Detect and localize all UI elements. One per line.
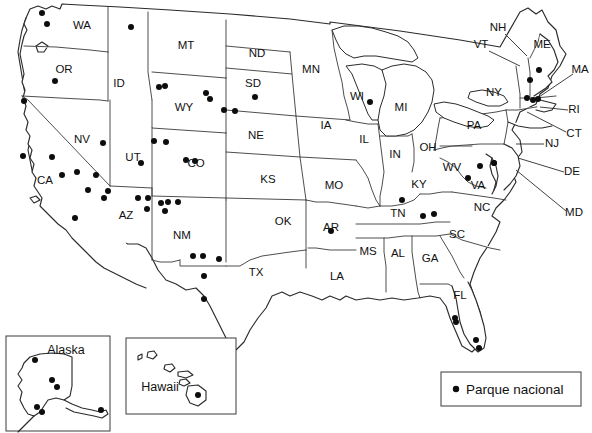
state-label-or: OR <box>55 63 72 75</box>
park-dot <box>101 195 107 201</box>
state-label-oh: OH <box>419 141 436 153</box>
park-dot <box>44 21 50 27</box>
state-label-ct: CT <box>566 127 581 139</box>
park-dot <box>201 273 207 279</box>
leader-line-ct <box>527 112 566 132</box>
park-dot <box>175 199 181 205</box>
park-dot <box>190 253 196 259</box>
park-dot <box>144 206 150 212</box>
park-dot <box>491 160 497 166</box>
park-dot <box>162 208 168 214</box>
state-label-al: AL <box>391 247 406 259</box>
state-label-de: DE <box>564 165 580 177</box>
leader-line-nh <box>505 34 527 56</box>
state-label-nh: NH <box>490 21 507 33</box>
park-dot <box>72 215 78 221</box>
state-label-nj: NJ <box>545 137 559 149</box>
us-national-parks-map: WAORIDMTNDSDWYNENVUTCOKSCAAZNMOKTXMNIAMO… <box>0 0 592 433</box>
callout-leader-lines <box>489 34 573 211</box>
park-dot <box>39 10 45 16</box>
park-dot <box>536 67 542 73</box>
state-label-ia: IA <box>321 119 332 131</box>
state-label-wi: WI <box>350 90 364 102</box>
state-label-me: ME <box>533 38 551 50</box>
alaska-inset-label: Alaska <box>47 343 85 357</box>
state-label-az: AZ <box>119 209 134 221</box>
state-label-ma: MA <box>571 63 589 75</box>
state-label-ga: GA <box>422 252 439 264</box>
park-dot-alaska <box>54 384 60 390</box>
state-label-pa: PA <box>467 119 482 131</box>
park-dot <box>200 253 206 259</box>
park-dot <box>207 96 213 102</box>
callout-label-group: NHVTMEMARICTNJDEMD <box>474 21 589 218</box>
park-dot <box>158 200 164 206</box>
state-label-id: ID <box>113 77 125 89</box>
park-dot <box>527 77 533 83</box>
park-dot <box>367 99 373 105</box>
park-dot <box>232 108 238 114</box>
state-label-co: CO <box>187 157 204 169</box>
state-label-ut: UT <box>125 151 140 163</box>
state-label-nv: NV <box>74 133 90 145</box>
leader-line-ma <box>536 74 573 99</box>
state-label-il: IL <box>359 133 369 145</box>
park-dot <box>535 96 541 102</box>
park-dot-hawaii <box>195 392 201 398</box>
park-dot <box>128 24 134 30</box>
state-label-tx: TX <box>249 266 264 278</box>
park-dot <box>100 140 106 146</box>
park-dot <box>85 187 91 193</box>
state-label-ne: NE <box>248 129 264 141</box>
park-dot-alaska <box>49 377 55 383</box>
state-label-mi: MI <box>395 101 408 113</box>
park-dot <box>524 95 530 101</box>
park-dot-alaska <box>39 409 45 415</box>
leader-line-vt <box>489 51 520 66</box>
park-dot <box>156 84 162 90</box>
state-label-ri: RI <box>568 103 580 115</box>
state-label-ny: NY <box>486 86 502 98</box>
state-label-tn: TN <box>390 207 405 219</box>
leader-line-ri <box>540 107 568 110</box>
state-label-group: WAORIDMTNDSDWYNENVUTCOKSCAAZNMOKTXMNIAMO… <box>37 19 502 301</box>
state-label-vt: VT <box>474 38 489 50</box>
state-label-sc: SC <box>449 228 465 240</box>
park-dot <box>151 138 157 144</box>
park-dot <box>74 169 80 175</box>
park-dot <box>399 197 405 203</box>
park-dot <box>52 78 58 84</box>
state-label-in: IN <box>389 148 401 160</box>
state-label-ms: MS <box>359 245 377 257</box>
park-dot <box>21 98 27 104</box>
state-label-nm: NM <box>173 229 191 241</box>
state-label-ks: KS <box>260 173 276 185</box>
park-dot-alaska <box>34 404 40 410</box>
park-dot <box>163 139 169 145</box>
park-dot-group <box>20 10 542 415</box>
park-dot-alaska <box>32 357 38 363</box>
state-label-mn: MN <box>302 63 320 75</box>
park-dot <box>59 172 65 178</box>
state-label-ar: AR <box>323 221 339 233</box>
park-dot <box>252 94 258 100</box>
park-dot <box>221 107 227 113</box>
legend-label: Parque nacional <box>466 382 564 397</box>
park-dot <box>201 296 207 302</box>
park-dot <box>530 97 536 103</box>
state-label-mo: MO <box>325 179 344 191</box>
park-dot <box>476 345 482 351</box>
state-label-la: LA <box>330 270 344 282</box>
park-dot <box>105 188 111 194</box>
park-dot <box>20 153 26 159</box>
map-overlay: WAORIDMTNDSDWYNENVUTCOKSCAAZNMOKTXMNIAMO… <box>0 0 592 433</box>
state-label-ky: KY <box>411 178 427 190</box>
park-dot <box>93 172 99 178</box>
park-dot <box>420 213 426 219</box>
state-label-wv: WV <box>443 161 462 173</box>
park-dot <box>431 211 437 217</box>
park-dot <box>165 199 171 205</box>
park-dot-alaska <box>98 407 104 413</box>
park-dot <box>162 83 168 89</box>
park-dot <box>216 256 222 262</box>
